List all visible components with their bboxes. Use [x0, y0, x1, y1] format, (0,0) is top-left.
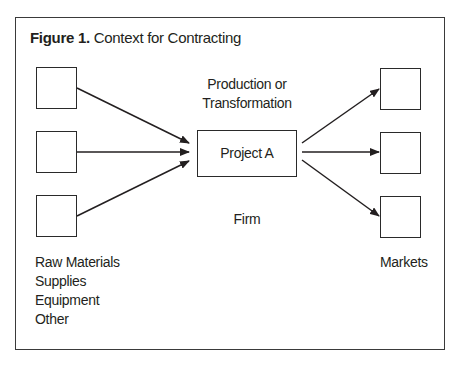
firm-label: Firm: [197, 210, 297, 229]
market-box-1: [380, 68, 421, 110]
arrows: [0, 0, 460, 367]
project-label: Project A: [197, 144, 297, 163]
market-box-2: [380, 132, 421, 174]
production-label-line2: Transformation: [180, 94, 314, 113]
arrow-input-3: [77, 161, 189, 216]
input-label-other: Other: [35, 310, 69, 329]
arrow-input-1: [77, 88, 189, 143]
arrow-output-3: [302, 160, 379, 216]
production-label-line1: Production or: [180, 75, 314, 94]
markets-label: Markets: [380, 253, 428, 272]
input-label-supplies: Supplies: [35, 272, 86, 291]
input-label-raw-materials: Raw Materials: [35, 253, 120, 272]
input-box-2: [36, 131, 77, 173]
input-label-equipment: Equipment: [35, 291, 99, 310]
input-box-3: [36, 195, 77, 237]
input-box-1: [36, 67, 77, 109]
market-box-3: [380, 196, 421, 238]
